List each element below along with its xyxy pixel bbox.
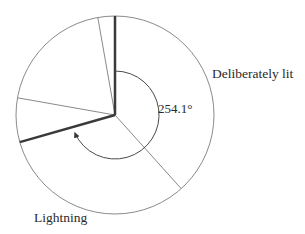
label-lightning: Lightning: [34, 210, 87, 225]
emphasized-boundary-254: [20, 115, 115, 142]
pie-chart: Deliberately lit 254.1° Lightning: [0, 0, 305, 234]
angle-arc-arrow: [75, 71, 159, 159]
slice-boundary: [115, 115, 181, 189]
label-deliberately-lit: Deliberately lit: [212, 66, 294, 81]
slice-boundary: [98, 18, 115, 116]
angle-annotation: 254.1°: [158, 101, 192, 116]
slice-boundary: [18, 98, 116, 115]
